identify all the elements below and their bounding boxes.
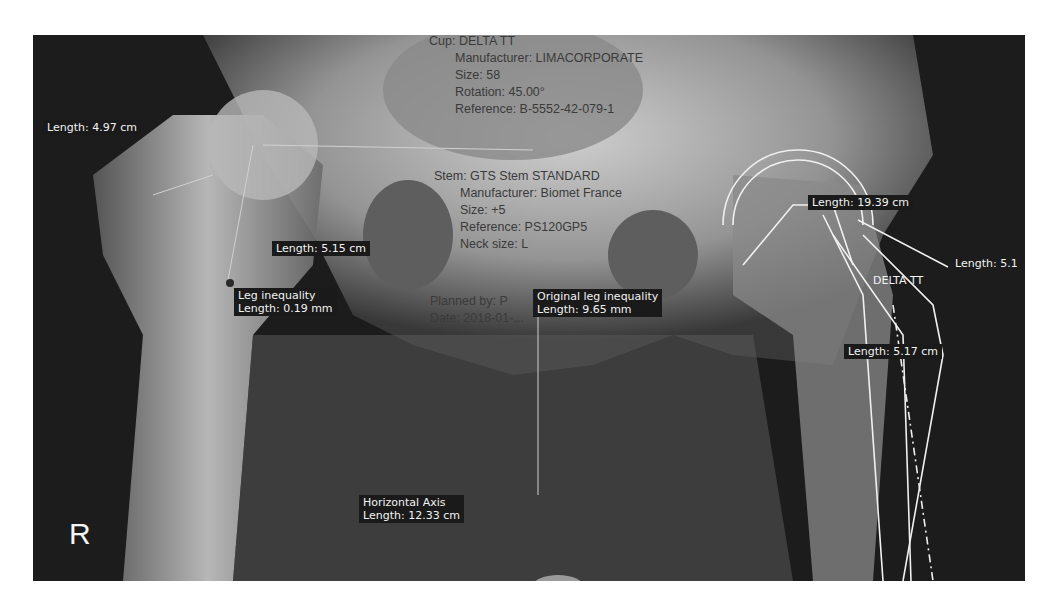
stem-manufacturer: Manufacturer: Biomet France — [434, 185, 622, 202]
planning-info: Planned by: P Date: 2018-01-... — [430, 293, 524, 327]
measurement-label-5-15[interactable]: Length: 5.15 cm — [272, 241, 370, 256]
cup-size: Size: 58 — [429, 67, 643, 84]
cup-manufacturer: Manufacturer: LIMACORPORATE — [429, 50, 643, 67]
xray-image: Cup: DELTA TT Manufacturer: LIMACORPORAT… — [33, 35, 1025, 581]
stem-reference: Reference: PS120GP5 — [434, 219, 622, 236]
cup-info: Cup: DELTA TT Manufacturer: LIMACORPORAT… — [429, 35, 643, 118]
planned-by: Planned by: P — [430, 293, 524, 310]
stem-info: Stem: GTS Stem STANDARD Manufacturer: Bi… — [434, 168, 622, 253]
measurement-label-5-1[interactable]: Length: 5.1 — [955, 257, 1018, 270]
cup-reference: Reference: B-5552-42-079-1 — [429, 101, 643, 118]
cup-title: Cup: DELTA TT — [429, 35, 643, 50]
side-marker-right: R — [69, 517, 91, 551]
stem-size: Size: +5 — [434, 202, 622, 219]
leg-inequality-label[interactable]: Leg inequality Length: 0.19 mm — [234, 288, 337, 316]
measurement-label-4-97[interactable]: Length: 4.97 cm — [43, 120, 141, 135]
implant-overlay-label: DELTA TT — [873, 274, 923, 287]
measurement-label-5-17[interactable]: Length: 5.17 cm — [844, 344, 942, 359]
cup-rotation: Rotation: 45.00° — [429, 84, 643, 101]
horizontal-axis-label[interactable]: Horizontal Axis Length: 12.33 cm — [359, 495, 464, 523]
original-leg-inequality-label[interactable]: Original leg inequality Length: 9.65 mm — [533, 289, 662, 317]
measurement-label-19-39[interactable]: Length: 19.39 cm — [808, 195, 913, 210]
stem-title: Stem: GTS Stem STANDARD — [434, 168, 622, 185]
plan-date: Date: 2018-01-... — [430, 310, 524, 327]
stem-neck-size: Neck size: L — [434, 236, 622, 253]
